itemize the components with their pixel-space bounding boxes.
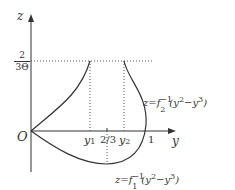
z-axis-arrow-icon [28, 14, 34, 22]
tick-y1: y1 [84, 135, 95, 146]
label-lower-curve: z=f−11(y2−y3) [115, 175, 179, 185]
tick-two-thirds-label: 2/3 [100, 135, 116, 145]
curve-f2-right [107, 61, 146, 164]
upper-mid: −y [184, 97, 198, 108]
tick-one: 1 [148, 135, 154, 145]
label-upper-curve: z=f−12(y2−y3) [143, 98, 207, 108]
tick-y1-sub: 1 [90, 137, 95, 146]
z-tick-denominator: 3Θ [14, 62, 30, 72]
lower-prefix: z=f [115, 174, 132, 185]
tick-y2-sub: 2 [125, 137, 130, 146]
upper-close: ) [203, 97, 207, 108]
z-tick-fraction: 2 3Θ [14, 51, 30, 72]
lower-close: ) [175, 174, 179, 185]
y-axis-label: y [172, 135, 179, 147]
z-tick-numerator: 2 [14, 51, 30, 62]
curve-f1 [31, 131, 107, 164]
curve-f2-left [31, 61, 90, 131]
lower-mid: −y [156, 174, 170, 185]
tick-y2: y2 [119, 135, 130, 146]
z-axis-label: z [17, 10, 23, 22]
upper-prefix: z=f [143, 97, 160, 108]
origin-label: O [17, 130, 28, 143]
